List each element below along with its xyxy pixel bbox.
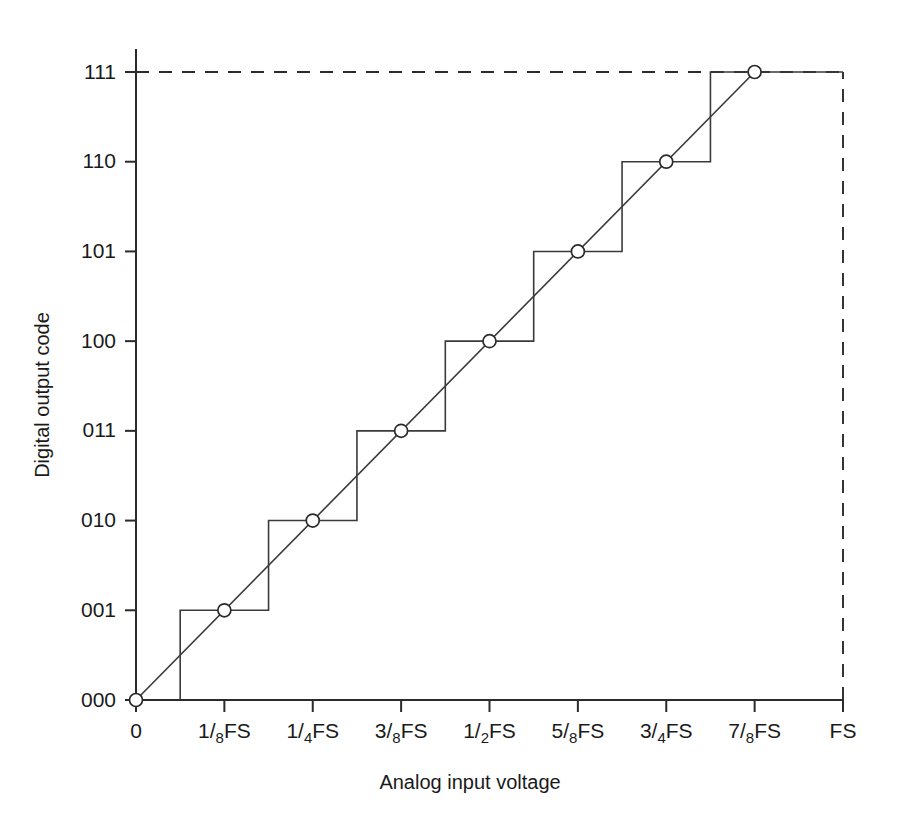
x-tick-label: 1/2FS [463, 719, 516, 746]
x-tick-label: 3/8FS [375, 719, 428, 746]
y-tick-label: 011 [83, 418, 116, 441]
x-tick-label: 7/8FS [728, 719, 781, 746]
y-axis-title: Digital output code [31, 312, 53, 478]
y-tick-label: 001 [81, 598, 116, 621]
y-tick-label: 101 [81, 239, 116, 262]
code-center-marker [395, 424, 408, 437]
y-tick-label: 010 [81, 508, 116, 531]
y-tick-label: 100 [81, 329, 116, 352]
code-center-marker [306, 514, 319, 527]
x-axis-title: Analog input voltage [379, 771, 560, 793]
code-center-marker [218, 604, 231, 617]
y-tick-label: 111 [84, 60, 116, 83]
code-center-marker [130, 694, 143, 707]
code-center-marker [571, 245, 584, 258]
x-tick-label: 1/8FS [198, 719, 251, 746]
code-center-marker [660, 155, 673, 168]
adc-transfer-function-figure: 000001010011100101110111 01/8FS1/4FS3/8F… [0, 0, 901, 823]
code-center-marker [483, 335, 496, 348]
x-tick-label: FS [830, 719, 857, 742]
y-tick-label: 110 [83, 149, 116, 172]
x-tick-label: 3/4FS [640, 719, 693, 746]
x-tick-label: 1/4FS [286, 719, 339, 746]
code-center-marker [748, 66, 761, 79]
chart-canvas: 000001010011100101110111 01/8FS1/4FS3/8F… [0, 0, 901, 823]
y-tick-label: 000 [81, 688, 116, 711]
x-tick-label: 5/8FS [552, 719, 605, 746]
x-tick-label: 0 [130, 719, 142, 742]
